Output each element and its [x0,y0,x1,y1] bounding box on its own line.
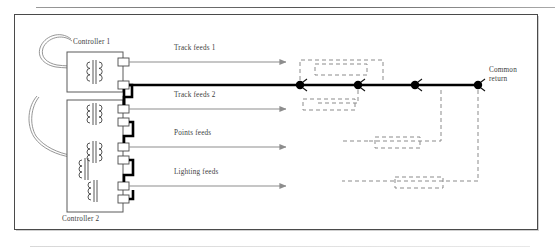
junction-node-1 [296,81,304,89]
common-return-label-line-2: return [489,75,517,84]
label-track-feeds-1: Track feeds 1 [174,44,215,52]
common-return-bus-wiring [124,85,478,199]
terminal-track-feed-2 [118,105,129,113]
junction-node-2 [354,81,362,89]
controller-2-body [67,100,123,212]
label-lighting-feeds: Lighting feeds [174,168,219,176]
dashed-loop-bottom [342,90,478,181]
label-points-feeds: Points feeds [174,129,211,137]
terminal-points-feed [118,143,129,151]
common-return-label: Common return [489,66,517,84]
common-return-label-line-1: Common [489,66,517,75]
controller-1-label: Controller 1 [73,38,110,46]
junction-node-4 [474,81,482,89]
dashed-block-mid [375,137,420,148]
dashed-block-bottom [395,177,443,188]
controller-2-label: Controller 2 [62,215,99,223]
terminal-track-feed-1 [118,58,129,66]
terminal-return-3 [118,156,129,164]
dashed-layout-wiring [300,60,478,188]
terminal-return-4 [118,195,129,203]
dashed-block-lower-a [303,99,355,110]
controller-1-body [67,52,123,92]
dashed-block-upper [315,64,367,75]
terminal-lighting-feed [118,182,129,190]
dashed-loop-lower-a [315,90,358,103]
terminal-return-1 [118,81,129,89]
label-track-feeds-2: Track feeds 2 [174,91,215,99]
dashed-loop-upper-outer [300,60,383,80]
dashed-loop-mid [368,90,441,141]
terminal-return-2 [118,118,129,126]
junction-node-3 [411,81,419,89]
